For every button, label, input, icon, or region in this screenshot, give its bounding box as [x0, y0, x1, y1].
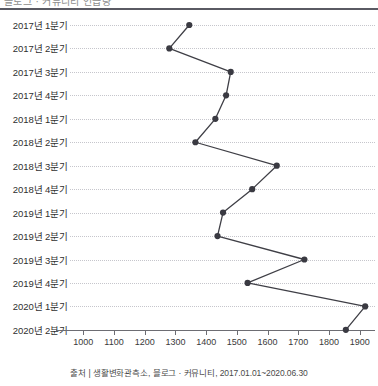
data-point-marker: 2018년 3분기: 1630	[274, 163, 280, 169]
data-point-marker: 2018년 1분기: 1430	[212, 116, 218, 122]
data-point-marker: 2019년 3분기: 1720	[301, 256, 307, 262]
chart-title: 블로그 · 커뮤니티 언급량	[4, 0, 111, 7]
series-line-chart: 2017년 1분기: 13452017년 2분기: 12802017년 3분기:…	[0, 14, 378, 344]
data-point-marker: 2017년 2분기: 1280	[166, 45, 172, 51]
data-point-marker: 2018년 4분기: 1550	[249, 186, 255, 192]
data-point-marker: 2017년 3분기: 1480	[228, 69, 234, 75]
data-point-marker: 2020년 1분기: 1918	[362, 303, 368, 309]
series-polyline	[169, 25, 365, 330]
data-point-marker: 2017년 4분기: 1465	[223, 92, 229, 98]
data-point-marker: 2019년 2분기: 1437	[214, 233, 220, 239]
source-caption: 출처 | 생활변화관측소, 블로그 · 커뮤니티, 2017.01.01~202…	[0, 366, 378, 378]
data-point-marker: 2019년 4분기: 1535	[244, 280, 250, 286]
clipped-title-strip: 블로그 · 커뮤니티 언급량	[0, 0, 378, 7]
data-point-marker: 2019년 1분기: 1455	[220, 210, 226, 216]
chart-plot-area: 2017년 1분기2017년 2분기2017년 3분기2017년 4분기2018…	[0, 14, 378, 344]
top-divider-rule	[0, 8, 378, 10]
data-point-marker: 2017년 1분기: 1345	[186, 22, 192, 28]
data-point-marker: 2020년 2분기: 1855	[343, 327, 349, 333]
data-point-marker: 2018년 2분기: 1365	[192, 139, 198, 145]
